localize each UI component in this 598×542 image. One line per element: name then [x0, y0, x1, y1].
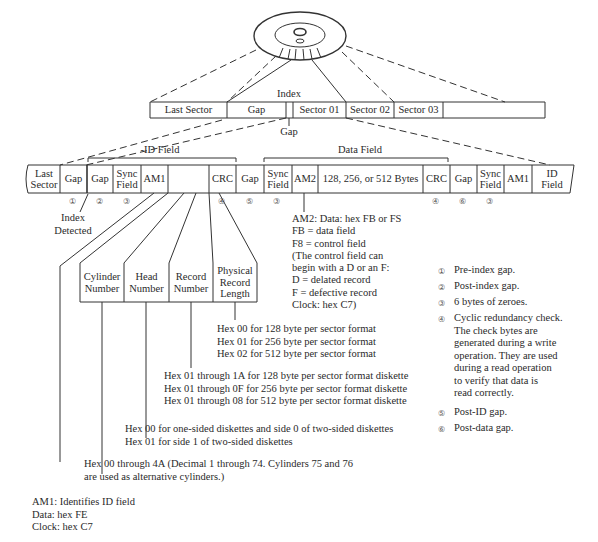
track-cell-last-sector: Last Sector	[150, 102, 227, 118]
legend-item-5: ⑤Post-ID gap.	[438, 406, 507, 421]
marker-4a: ④	[218, 197, 225, 206]
cell-crc-2: CRC	[423, 165, 450, 193]
marker-1: ①	[69, 197, 76, 206]
track-cell-sector-03: Sector 03	[394, 102, 443, 118]
legend-item-3: ③6 bytes of zeroes.	[438, 296, 527, 311]
legend-item-6: ⑥Post-data gap.	[438, 422, 514, 437]
cell-sync-field-1: Sync Field	[113, 165, 141, 193]
record-number-note: Hex 01 through 1A for 128 byte per secto…	[164, 370, 408, 408]
cell-crc-1: CRC	[209, 165, 236, 193]
cell-post-id-gap: Gap	[236, 165, 264, 193]
track-cell-sector-01: Sector 01	[293, 102, 346, 118]
subfield-record-number: Record Number	[169, 263, 213, 302]
cell-data-bytes: 128, 256, or 512 Bytes	[318, 165, 423, 193]
track-gap-label: Gap	[274, 126, 304, 139]
legend-item-2: ②Post-index gap.	[438, 280, 519, 295]
cell-am1-next: AM1	[504, 165, 532, 193]
cell-id-field-next: ID Field	[532, 165, 572, 193]
am1-note: AM1: Identifies ID field Data: hex FE Cl…	[32, 496, 135, 534]
legend-item-1: ①Pre-index gap.	[438, 264, 515, 279]
am2-note: AM2: Data: hex FB or FS FB = data field …	[292, 213, 401, 311]
marker-6: ⑥	[459, 197, 466, 206]
index-detected-label: Index Detected	[48, 212, 98, 237]
head-number-note: Hex 00 for one-sided diskettes and side …	[125, 423, 393, 448]
legend-item-4: ④Cyclic redundancy check. The check byte…	[438, 312, 563, 400]
record-length-note: Hex 00 for 128 byte per sector format He…	[217, 323, 376, 361]
cylinder-number-note: Hex 00 through 4A (Decimal 1 through 74.…	[84, 458, 353, 483]
cell-sync-field-3: Sync Field	[477, 165, 504, 193]
subfield-cylinder-number: Cylinder Number	[80, 263, 124, 302]
cell-post-index-gap: Gap	[87, 165, 113, 193]
cell-sync-field-2: Sync Field	[264, 165, 292, 193]
index-label: Index	[264, 88, 314, 101]
cell-pre-index-gap: Gap	[60, 165, 87, 193]
marker-4b: ④	[432, 197, 439, 206]
id-field-label: -ID Field	[120, 144, 200, 157]
track-cell-sector-02: Sector 02	[346, 102, 394, 118]
subfield-physical-record-length: Physical Record Length	[213, 263, 257, 302]
cell-am2: AM2	[292, 165, 318, 193]
subfield-head-number: Head Number	[124, 263, 169, 302]
marker-3b: ③	[273, 197, 280, 206]
marker-2: ②	[96, 197, 103, 206]
track-cell-gap: Gap	[227, 102, 286, 118]
diskette-icon	[254, 12, 346, 60]
marker-3c: ③	[486, 197, 493, 206]
cell-am1: AM1	[141, 165, 168, 193]
cell-last-sector: Last Sector	[28, 165, 60, 193]
cell-post-data-gap: Gap	[450, 165, 477, 193]
marker-3a: ③	[123, 197, 130, 206]
data-field-label: Data Field	[320, 144, 400, 157]
marker-5: ⑤	[246, 197, 253, 206]
